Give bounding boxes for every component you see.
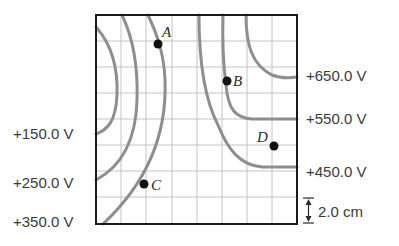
- point-b-marker: [223, 77, 232, 86]
- point-d-label: D: [257, 129, 268, 145]
- point-a-label: A: [162, 24, 171, 40]
- double-arrow-icon: [303, 198, 314, 223]
- curve-150v: [96, 27, 117, 134]
- label-150v: +150.0 V: [13, 126, 73, 142]
- point-c-marker: [140, 180, 149, 189]
- label-450v: +450.0 V: [306, 164, 366, 180]
- scale-label: 2.0 cm: [318, 204, 363, 220]
- label-550v: +550.0 V: [306, 111, 366, 127]
- label-250v: +250.0 V: [13, 175, 73, 191]
- point-c-label: C: [151, 177, 161, 193]
- point-b-label: B: [233, 73, 242, 89]
- equipotential-diagram: A B C D +650.0 V +550.0 V +450.0 V +150.…: [0, 0, 399, 246]
- point-d-marker: [270, 142, 279, 151]
- point-a-marker: [154, 40, 163, 49]
- label-350v: +350.0 V: [13, 214, 73, 230]
- label-650v: +650.0 V: [306, 68, 366, 84]
